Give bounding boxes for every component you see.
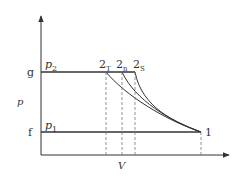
- label-p2: p2: [45, 58, 57, 73]
- x-axis-label: V: [118, 160, 127, 171]
- pv-diagram: p V g f p2 p1 2T 2n 2S 1: [0, 0, 241, 181]
- label-2n: 2n: [116, 58, 128, 73]
- label-2T: 2T: [99, 58, 111, 73]
- label-1: 1: [205, 126, 212, 139]
- label-p1: p1: [45, 119, 57, 134]
- polytropic-curve: [122, 72, 201, 132]
- label-2S: 2S: [133, 58, 145, 73]
- isothermal-curve: [106, 72, 201, 132]
- tick-g: g: [27, 66, 34, 79]
- tick-f: f: [28, 126, 33, 139]
- y-axis-label: p: [17, 96, 24, 107]
- isentropic-curve: [135, 72, 201, 132]
